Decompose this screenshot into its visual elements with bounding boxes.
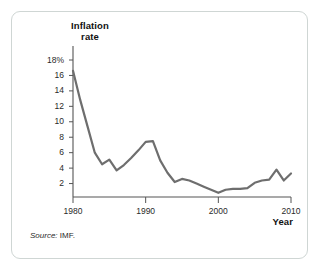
source-value: IMF. — [60, 231, 75, 240]
x-axis-tick-label: 1990 — [126, 206, 166, 216]
y-axis-tick-label: 18% — [34, 55, 64, 65]
y-axis-ticks — [69, 60, 73, 184]
y-axis-tick-label: 6 — [34, 147, 64, 157]
axes — [73, 46, 291, 197]
y-axis-tick-label: 10 — [34, 116, 64, 126]
y-axis-tick-label: 12 — [34, 101, 64, 111]
x-axis-tick-label: 2000 — [198, 206, 238, 216]
source-note: Source: IMF. — [30, 231, 75, 240]
x-axis-tick-label: 1980 — [53, 206, 93, 216]
y-axis-tick-label: 2 — [34, 178, 64, 188]
figure-frame: Inflation rate Year 18%161412108642 1980… — [11, 11, 308, 259]
data-series-group — [73, 71, 291, 193]
x-axis-ticks — [73, 197, 291, 203]
inflation-rate-line — [73, 71, 291, 193]
source-label: Source: — [30, 231, 58, 240]
y-axis-tick-label: 14 — [34, 85, 64, 95]
y-axis-tick-label: 8 — [34, 132, 64, 142]
y-axis-tick-label: 16 — [34, 70, 64, 80]
x-axis-tick-label: 2010 — [271, 206, 311, 216]
y-axis-tick-label: 4 — [34, 163, 64, 173]
